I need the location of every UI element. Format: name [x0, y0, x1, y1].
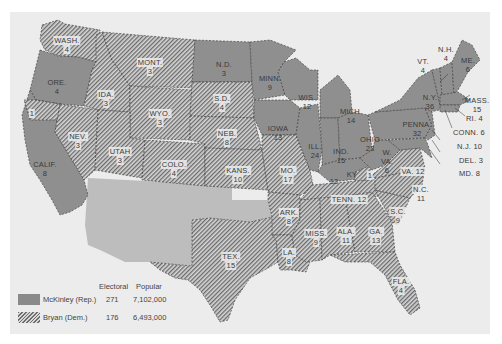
label-sd: S.D.4	[213, 94, 230, 112]
label-penna: PENNA.32	[402, 120, 431, 138]
label-ark: ARK.8	[279, 208, 299, 226]
label-wash: WASH.4	[53, 36, 80, 54]
label-wva: W.VA.6	[381, 148, 393, 175]
label-sc: S.C.9	[389, 207, 406, 225]
label-fla: FLA.4	[392, 277, 411, 295]
label-va: VA. 12	[400, 167, 425, 176]
label-miss: MISS.9	[304, 229, 327, 247]
label-ky-split: 1	[367, 171, 373, 180]
label-me: ME.6	[461, 56, 475, 74]
label-kans: KANS.10	[225, 166, 251, 184]
label-del: DEL. 3	[459, 156, 483, 165]
label-ohio: OHIO23	[360, 135, 380, 153]
state-nh	[440, 62, 454, 95]
label-nc: N.C.11	[412, 185, 430, 203]
label-ala: ALA.11	[336, 227, 355, 245]
label-la: LA.8	[282, 248, 296, 266]
legend-header-electoral: Electoral	[99, 282, 128, 291]
label-mich: MICH.14	[340, 107, 362, 125]
label-nj: N.J. 10	[457, 142, 482, 151]
legend-row-mckinley: McKinley (Rep.) 271 7,102,000	[18, 294, 208, 306]
label-ida: IDA.3	[97, 90, 114, 108]
label-wyo: WYO.3	[149, 109, 172, 127]
label-tenn: TENN. 12	[331, 195, 368, 204]
label-md: MD. 8	[459, 169, 480, 178]
label-ny: N.Y.36	[423, 93, 437, 111]
label-vt: VT.4	[417, 57, 428, 75]
legend-header-popular: Popular	[136, 282, 162, 291]
label-utah: UTAH3	[109, 147, 132, 165]
label-calif: CALIF.8	[33, 160, 57, 178]
label-mont: MONT.3	[137, 58, 163, 76]
label-wis: WIS.12	[298, 93, 315, 111]
label-ky-ev: 12	[330, 177, 339, 186]
label-mo: MO.17	[280, 166, 297, 184]
legend-candidate: McKinley (Rep.)	[43, 295, 96, 304]
legend-electoral: 271	[106, 295, 119, 304]
label-calif-split: 1	[29, 109, 35, 118]
label-ky-name: KY	[347, 170, 357, 179]
state-conn-ri	[440, 105, 460, 112]
label-iowa: IOWA13	[268, 124, 289, 142]
legend: Electoral Popular McKinley (Rep.) 271 7,…	[18, 282, 218, 332]
label-mass: MASS.15	[465, 96, 489, 114]
label-ga: GA.13	[368, 227, 384, 245]
legend-popular: 7,102,000	[133, 295, 166, 304]
legend-swatch-solid	[18, 294, 40, 305]
label-nh: N.H.4	[438, 45, 454, 63]
legend-popular: 6,493,000	[133, 313, 166, 322]
label-nd: N.D.3	[216, 60, 232, 78]
legend-row-bryan: Bryan (Dem.) 176 6,493,000	[18, 312, 208, 324]
label-minn: MINN.9	[259, 74, 281, 92]
legend-candidate: Bryan (Dem.)	[43, 313, 88, 322]
label-conn: CONN. 6	[453, 128, 485, 137]
legend-electoral: 176	[106, 313, 119, 322]
label-tex: TEX.15	[221, 252, 240, 270]
label-nev: NEV.3	[68, 132, 88, 150]
label-ill: ILL.24	[308, 142, 321, 160]
label-ind: IND.15	[333, 147, 349, 165]
label-colo: COLO.4	[161, 160, 187, 178]
legend-swatch-hatched	[18, 312, 40, 323]
label-ore: ORE.4	[47, 78, 66, 96]
label-neb: NEB.8	[217, 129, 237, 147]
label-ri: RI. 4	[466, 114, 483, 123]
